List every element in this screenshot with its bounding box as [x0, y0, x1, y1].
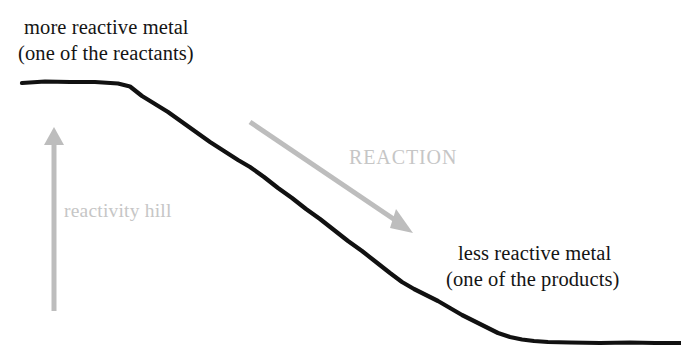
- reactant-label-line1: more reactive metal: [18, 14, 194, 40]
- reactivity-hill-diagram: more reactive metal (one of the reactant…: [0, 0, 681, 363]
- reactant-label: more reactive metal (one of the reactant…: [18, 14, 194, 66]
- reaction-arrow-label: REACTION: [349, 146, 457, 169]
- diagonal-down-right-arrow-icon: [250, 122, 413, 233]
- product-label-line2: (one of the products): [446, 266, 619, 292]
- product-label: less reactive metal (one of the products…: [446, 240, 619, 292]
- up-arrow-icon: [44, 127, 64, 311]
- product-label-line1: less reactive metal: [446, 240, 619, 266]
- reactivity-hill-arrow-label: reactivity hill: [64, 200, 172, 222]
- reactant-label-line2: (one of the reactants): [18, 40, 194, 66]
